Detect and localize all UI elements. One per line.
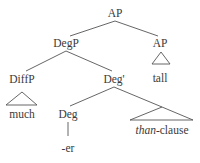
node-degp: DegP (53, 37, 79, 50)
node-deg: Deg (58, 108, 77, 121)
node-ap-root: AP (108, 7, 123, 19)
leaf-er: -er (62, 142, 75, 154)
than-italic: than (135, 124, 156, 136)
leaf-much: much (9, 108, 35, 120)
node-ap-right: AP (153, 37, 168, 49)
node-diffp: DiffP (9, 73, 34, 85)
edge-degp-degbar (66, 51, 112, 71)
triangle-diffp-much (6, 92, 37, 105)
triangle-than-clause (130, 107, 193, 120)
edge-degp-diffp (26, 51, 66, 71)
leaf-than-clause: than-clause (135, 124, 188, 136)
edge-degbar-thanclause (114, 87, 162, 107)
syntax-tree: AP DegP AP tall DiffP Deg' much Deg -er … (0, 0, 200, 163)
edge-ap-degp (70, 21, 115, 36)
edge-degbar-deg (70, 87, 114, 106)
leaf-tall: tall (153, 72, 168, 84)
node-degbar: Deg' (103, 73, 124, 86)
triangle-ap-tall (152, 52, 170, 64)
clause-text: -clause (156, 124, 189, 136)
edge-ap-ap (115, 21, 158, 36)
